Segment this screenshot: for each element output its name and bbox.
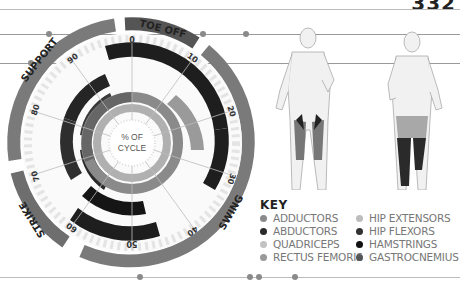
page-number: 332: [411, 0, 456, 15]
legend-item-gastrocnemius: GASTROCNEMIUS: [356, 251, 452, 263]
legend-swatch: [260, 228, 267, 235]
legend-title: KEY: [260, 198, 452, 212]
legend-item-rectus-femoris: RECTUS FEMORIS: [260, 251, 356, 263]
legend-swatch: [356, 215, 363, 222]
legend-items: ADDUCTORS HIP EXTENSORS ABDUCTORS HIP FL…: [260, 212, 452, 263]
legend-swatch: [356, 241, 363, 248]
legend-item-abductors: ABDUCTORS: [260, 225, 356, 237]
center-label-line2: CYCLE: [118, 143, 147, 153]
center-label-line1: % OF: [121, 132, 143, 142]
timeline-dot: [292, 274, 298, 280]
legend-item-hip-extensors: HIP EXTENSORS: [356, 212, 452, 224]
legend-item-quadriceps: QUADRICEPS: [260, 238, 356, 250]
legend-swatch: [356, 228, 363, 235]
legend-item-adductors: ADDUCTORS: [260, 212, 356, 224]
legend-item-hip-flexors: HIP FLEXORS: [356, 225, 452, 237]
legend-swatch: [260, 215, 267, 222]
legend: KEY ADDUCTORS HIP EXTENSORS ABDUCTORS HI…: [260, 198, 452, 263]
anatomy-figures: [260, 20, 460, 190]
legend-item-hamstrings: HAMSTRINGS: [356, 238, 452, 250]
legend-swatch: [260, 254, 267, 261]
legend-swatch: [356, 254, 363, 261]
gait-cycle-wheel: % OF CYCLE 0 10 20 30 40 50 60 70 80 90 …: [0, 0, 260, 284]
tick-label: 0: [129, 36, 135, 45]
front-figure: [276, 28, 334, 190]
legend-swatch: [260, 241, 267, 248]
tick-label: 50: [126, 239, 138, 248]
